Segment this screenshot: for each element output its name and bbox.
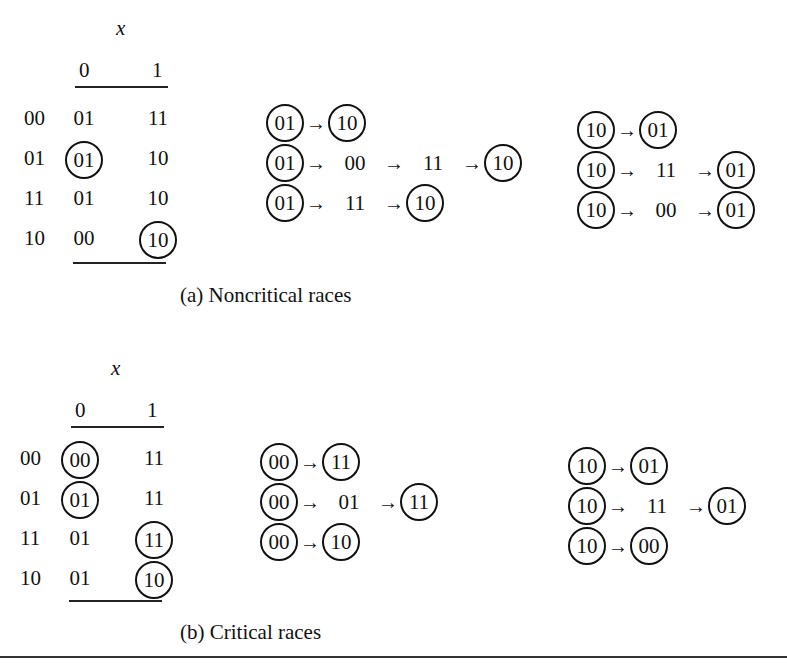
next-state-cell: 01 [64,178,104,218]
cell-value: 10 [139,221,177,259]
stable-state-cell: 11 [134,518,174,558]
transient-state-node: 00 [328,144,382,182]
state-label: 01 [20,486,41,510]
transition-sequence: 10→01 [577,110,677,150]
next-state-cell: 01 [64,98,104,138]
transition-sequence: 10→01 [568,446,668,486]
stable-state-node: 00 [260,523,298,561]
stable-state-cell: 10 [134,558,174,598]
stable-state-node: 00 [260,443,298,481]
caption-a: (a) Noncritical races [180,283,351,308]
cell-value: 11 [135,521,173,559]
stable-state-node: 10 [568,527,606,565]
cell-value: 10 [148,186,169,210]
stable-state-node: 01 [266,144,304,182]
stable-state-node: 01 [630,447,668,485]
arrow-right-icon: → [460,152,484,175]
arrow-right-icon: → [693,159,717,182]
stable-state-node: 00 [630,527,668,565]
cell-value: 10 [148,146,169,170]
stable-state-cell: 10 [138,218,178,258]
stable-state-node: 01 [639,111,677,149]
arrow-right-icon: → [298,531,322,554]
stable-state-node: 10 [568,487,606,525]
table-header-rule [71,426,164,428]
cell-value: 11 [144,486,164,510]
next-state-cell: 11 [134,478,174,518]
next-state-cell: 00 [64,218,104,258]
cell-value: 01 [74,106,95,130]
cell-value: 10 [135,561,173,599]
arrow-right-icon: → [304,152,328,175]
transient-state-node: 11 [328,184,382,222]
stable-state-node: 01 [717,151,755,189]
column-header-1: 1 [152,58,163,82]
arrow-right-icon: → [606,495,630,518]
next-state-cell: 10 [138,138,178,178]
cell-value: 00 [74,226,95,250]
state-label: 11 [20,526,40,550]
arrow-right-icon: → [298,451,322,474]
cell-value: 01 [70,566,91,590]
stable-state-node: 10 [568,447,606,485]
column-header-1: 1 [147,398,158,422]
cell-value: 01 [74,186,95,210]
transition-sequence: 10→00 [568,526,668,566]
arrow-right-icon: → [615,199,639,222]
transition-sequence: 01→10 [266,103,366,143]
state-label: 00 [24,106,45,130]
arrow-right-icon: → [693,199,717,222]
transient-state-node: 01 [322,483,376,521]
transient-state-node: 00 [639,191,693,229]
stable-state-node: 10 [484,144,522,182]
stable-state-node: 10 [406,184,444,222]
stable-state-node: 00 [260,483,298,521]
next-state-cell: 01 [60,518,100,558]
table-bottom-rule [73,262,166,264]
stable-state-cell: 01 [60,478,100,518]
page-bottom-rule [0,656,787,658]
stable-state-cell: 01 [64,138,104,178]
stable-state-node: 11 [400,483,438,521]
next-state-cell: 11 [134,438,174,478]
arrow-right-icon: → [382,192,406,215]
transition-sequence: 10→11→01 [577,150,755,190]
caption-b: (b) Critical races [180,620,321,645]
stable-state-node: 01 [266,184,304,222]
state-label: 10 [24,226,45,250]
cell-value: 00 [61,441,99,479]
transition-sequence: 00→01→11 [260,482,438,522]
state-label: 10 [20,566,41,590]
cell-value: 11 [148,106,168,130]
arrow-right-icon: → [615,159,639,182]
arrow-right-icon: → [382,152,406,175]
table-bottom-rule [69,600,162,602]
arrow-right-icon: → [298,491,322,514]
transient-state-node: 11 [639,151,693,189]
state-label: 01 [24,146,45,170]
state-label: 00 [20,446,41,470]
table-header-rule [75,86,168,88]
arrow-right-icon: → [684,495,708,518]
arrow-right-icon: → [376,491,400,514]
stable-state-node: 10 [577,191,615,229]
arrow-right-icon: → [304,112,328,135]
stable-state-node: 01 [708,487,746,525]
column-header-0: 0 [79,58,90,82]
transient-state-node: 11 [630,487,684,525]
next-state-cell: 10 [138,178,178,218]
cell-value: 01 [65,141,103,179]
stable-state-node: 10 [328,104,366,142]
cell-value: 11 [144,446,164,470]
transition-sequence: 00→10 [260,522,360,562]
input-label-x: x [116,16,125,41]
stable-state-node: 10 [577,151,615,189]
transition-sequence: 01→00→11→10 [266,143,522,183]
input-label-x: x [111,356,120,381]
arrow-right-icon: → [606,535,630,558]
stable-state-node: 11 [322,443,360,481]
arrow-right-icon: → [615,119,639,142]
stable-state-node: 10 [322,523,360,561]
transition-sequence: 10→00→01 [577,190,755,230]
stable-state-node: 01 [717,191,755,229]
